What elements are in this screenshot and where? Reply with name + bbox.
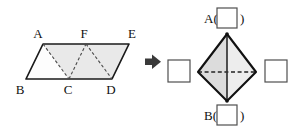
answer-box-right-group[interactable]	[265, 60, 287, 82]
tetrahedron-group	[198, 32, 256, 103]
answer-box-top-suffix: )	[240, 11, 244, 26]
answer-box-top-prefix: A(	[204, 11, 218, 26]
net-vertex-label-c: C	[64, 82, 73, 97]
tetra-vertex-apex	[225, 32, 229, 36]
answer-box-right[interactable]	[265, 60, 287, 82]
transform-arrow-group	[145, 55, 161, 70]
net-vertex-label-e: E	[128, 26, 136, 41]
net-vertex-label-b: B	[16, 82, 25, 97]
answer-box-top[interactable]	[217, 8, 237, 28]
answer-box-left-group[interactable]	[168, 60, 190, 82]
answer-box-left[interactable]	[168, 60, 190, 82]
arrow-head-icon	[152, 55, 161, 70]
net-vertex-label-f: F	[80, 26, 87, 41]
tetra-vertex-bottom	[225, 99, 229, 103]
answer-box-bottom[interactable]	[217, 105, 237, 125]
arrow-shaft	[145, 59, 153, 66]
net-vertex-label-d: D	[106, 82, 115, 97]
answer-box-top-group[interactable]: A( )	[204, 8, 244, 28]
answer-box-bottom-prefix: B(	[204, 108, 217, 123]
geometry-figure: A F E B C D	[0, 0, 303, 129]
answer-box-bottom-suffix: )	[240, 108, 244, 123]
net-figure-group: A F E B C D	[16, 26, 136, 97]
answer-box-bottom-group[interactable]: B( )	[204, 105, 244, 125]
net-vertex-label-a: A	[33, 26, 43, 41]
figure-canvas: A F E B C D	[0, 0, 303, 129]
